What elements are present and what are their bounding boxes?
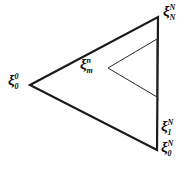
label-xi-m-superscript-n: ξnm bbox=[80, 56, 93, 77]
xi-subscript: m bbox=[86, 67, 92, 74]
xi-subscript: 0 bbox=[167, 150, 171, 157]
xi-scripts: nm bbox=[86, 63, 92, 77]
label-xi-N-superscript-N: ξNN bbox=[163, 3, 175, 24]
inner-triangle bbox=[108, 39, 157, 97]
xi-scripts: 00 bbox=[14, 79, 18, 93]
xi-scripts: N1 bbox=[167, 125, 173, 139]
xi-scripts: NN bbox=[169, 10, 175, 24]
label-xi-0-superscript-N: ξN0 bbox=[161, 139, 173, 160]
label-xi-1-superscript-N: ξN1 bbox=[161, 118, 173, 139]
xi-superscript: N bbox=[167, 140, 173, 147]
xi-scripts: N0 bbox=[167, 146, 173, 160]
xi-subscript: 1 bbox=[167, 129, 171, 136]
xi-subscript: N bbox=[169, 14, 175, 21]
label-xi-0-superscript-0: ξ00 bbox=[8, 72, 18, 93]
xi-superscript: n bbox=[86, 57, 90, 64]
xi-superscript: N bbox=[169, 4, 175, 11]
xi-subscript: 0 bbox=[14, 83, 18, 90]
geometry-figure: ξ00 ξNN ξnm ξN1 ξN0 bbox=[0, 0, 192, 170]
xi-superscript: N bbox=[167, 119, 173, 126]
outer-triangle bbox=[30, 17, 158, 150]
xi-superscript: 0 bbox=[14, 73, 18, 80]
